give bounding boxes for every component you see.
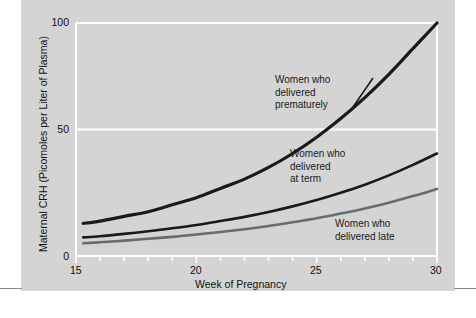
x-tick-30: 30	[430, 264, 442, 276]
x-tick-marks	[76, 256, 437, 263]
page-rule-left	[0, 288, 22, 289]
y-axis-label: Maternal CRH (Picomoles per Liter of Pla…	[37, 36, 49, 252]
x-tick-20: 20	[190, 264, 202, 276]
annotation-premature: Women who delivered prematurely	[275, 74, 330, 112]
chart-svg	[21, 0, 455, 291]
figure-panel: 0 50 100 15 20 25 30 Maternal CRH (Picom…	[21, 0, 455, 291]
x-tick-15: 15	[70, 264, 82, 276]
data-curves	[83, 23, 437, 243]
annotation-term: Women who delivered at term	[290, 148, 345, 186]
y-tick-100: 100	[35, 16, 69, 28]
x-tick-25: 25	[310, 264, 322, 276]
x-axis-label: Week of Pregnancy	[195, 278, 286, 290]
chart-area: 0 50 100 15 20 25 30 Maternal CRH (Picom…	[21, 0, 455, 291]
series-line-0	[83, 23, 437, 223]
page-rule-right	[454, 288, 476, 289]
annotation-late: Women who delivered late	[335, 218, 394, 243]
